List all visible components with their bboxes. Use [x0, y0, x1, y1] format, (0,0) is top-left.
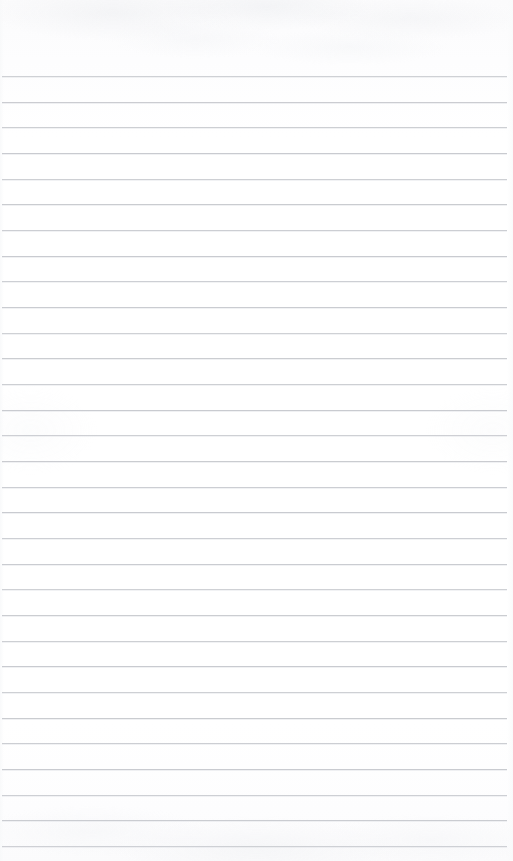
writing-area[interactable] [0, 0, 513, 861]
lined-paper-page [0, 0, 513, 861]
